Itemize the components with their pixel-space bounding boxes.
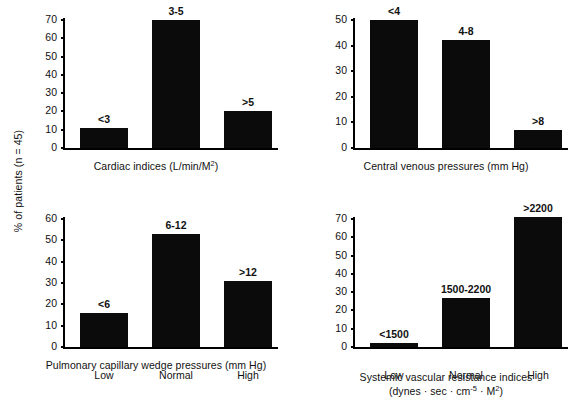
y-axis-tick-mark (351, 273, 355, 275)
y-axis-tick-mark (351, 309, 355, 311)
y-axis-tick-label: 10 (335, 322, 347, 335)
y-axis-tick-label: 0 (341, 141, 347, 154)
caption-units-b: · M (477, 385, 495, 397)
y-axis-tick-label: 60 (45, 31, 57, 44)
y-axis-tick-label: 10 (45, 123, 57, 136)
y-axis-tick-label: 50 (45, 50, 57, 63)
bar-value-label: 3-5 (168, 5, 183, 17)
y-axis-tick-mark (61, 261, 65, 263)
bar-value-label: >12 (239, 266, 257, 278)
y-axis-tick-label: 20 (335, 303, 347, 316)
y-axis-tick-mark (351, 121, 355, 123)
panel-pulmonary-capillary-wedge-pressures: 0102030405060<66-12>12LowNormalHigh Pulm… (22, 201, 290, 398)
y-axis-tick-mark (351, 147, 355, 149)
y-axis-tick-label: 70 (45, 13, 57, 26)
y-axis-tick-label: 70 (335, 212, 347, 225)
y-axis-tick-mark (61, 92, 65, 94)
y-axis-tick-mark (61, 282, 65, 284)
caption-units-a: (dynes · sec · cm (389, 385, 470, 397)
y-axis-tick-mark (61, 147, 65, 149)
y-axis-tick-mark (351, 70, 355, 72)
y-axis-tick-label: 40 (45, 68, 57, 81)
bar: <3 (80, 128, 128, 148)
caption-text-end: ) (215, 160, 219, 172)
bar: <1500 (370, 343, 418, 347)
y-axis-tick-mark (351, 328, 355, 330)
caption-units-c: ) (500, 385, 504, 397)
bar-value-label: <6 (98, 298, 110, 310)
y-axis-tick-mark (61, 346, 65, 348)
bar: >5 (224, 111, 272, 148)
y-axis-tick-mark (61, 129, 65, 131)
y-axis-tick-label: 60 (335, 230, 347, 243)
caption-cardiac-indices: Cardiac indices (L/min/M2) (22, 160, 290, 174)
y-axis-tick-mark (61, 218, 65, 220)
y-axis-tick-mark (61, 56, 65, 58)
plot-area-systemic-vascular-resistance-indices: 010203040506070<15001500-2200>2200LowNor… (354, 219, 568, 347)
four-panel-bar-figure: % of patients (n = 45) 010203040506070<3… (0, 0, 586, 398)
y-axis-tick-label: 0 (51, 141, 57, 154)
bar: 3-5 (152, 20, 200, 148)
y-axis-tick-label: 10 (335, 115, 347, 128)
bar-value-label: <3 (98, 113, 110, 125)
caption-line-1: Systemic vascular resistance indices (360, 371, 533, 383)
y-axis-tick-mark (351, 346, 355, 348)
bar: >12 (224, 281, 272, 347)
bar-value-label: 6-12 (165, 219, 186, 231)
panel-cardiac-indices: 010203040506070<33-5>5 Cardiac indices (… (22, 2, 290, 201)
y-axis-tick-mark (61, 325, 65, 327)
y-axis-tick-label: 30 (45, 276, 57, 289)
y-axis-tick-label: 30 (335, 64, 347, 77)
bar: >2200 (514, 217, 562, 347)
y-axis-tick-label: 40 (335, 267, 347, 280)
caption-text: Cardiac indices (L/min/M (94, 160, 211, 172)
y-axis-tick-label: 40 (45, 255, 57, 268)
bar-value-label: <4 (388, 5, 400, 17)
y-axis-tick-mark (351, 236, 355, 238)
bar: 6-12 (152, 234, 200, 347)
bar: 1500-2200 (442, 298, 490, 347)
bar-value-label: >8 (532, 115, 544, 127)
caption-systemic-vascular-resistance-indices: Systemic vascular resistance indices (dy… (312, 371, 580, 398)
y-axis-tick-label: 20 (335, 90, 347, 103)
plot-area-central-venous-pressures: 01020304050<44-8>8 (354, 20, 568, 148)
bar-value-label: 1500-2200 (441, 283, 491, 295)
y-axis-tick-label: 40 (335, 39, 347, 52)
bar-value-label: >5 (242, 96, 254, 108)
y-axis-tick-mark (61, 303, 65, 305)
bar-value-label: <1500 (379, 328, 409, 340)
panel-systemic-vascular-resistance-indices: 010203040506070<15001500-2200>2200LowNor… (312, 201, 580, 398)
y-axis-tick-label: 20 (45, 297, 57, 310)
y-axis-tick-label: 0 (51, 340, 57, 353)
bar: 4-8 (442, 40, 490, 148)
bar: >8 (514, 130, 562, 148)
caption-line-2: (dynes · sec · cm-5 · M2) (312, 385, 580, 398)
bar: <4 (370, 20, 418, 148)
bar-value-label: >2200 (523, 202, 553, 214)
y-axis-tick-label: 20 (45, 104, 57, 117)
plot-area-cardiac-indices: 010203040506070<33-5>5 (64, 20, 278, 148)
y-axis-tick-mark (61, 110, 65, 112)
y-axis-tick-mark (61, 74, 65, 76)
y-axis-tick-label: 50 (335, 249, 347, 262)
y-axis-tick-mark (61, 37, 65, 39)
y-axis-tick-label: 50 (45, 233, 57, 246)
caption-pulmonary-capillary-wedge-pressures: Pulmonary capillary wedge pressures (mm … (22, 359, 290, 373)
panel-central-venous-pressures: 01020304050<44-8>8 Central venous pressu… (312, 2, 580, 201)
y-axis-tick-label: 60 (45, 212, 57, 225)
caption-central-venous-pressures: Central venous pressures (mm Hg) (312, 160, 580, 174)
y-axis-tick-mark (61, 19, 65, 21)
plot-area-pulmonary-capillary-wedge-pressures: 0102030405060<66-12>12LowNormalHigh (64, 219, 278, 347)
y-axis-tick-mark (351, 291, 355, 293)
y-axis-tick-label: 0 (341, 340, 347, 353)
bar: <6 (80, 313, 128, 347)
y-axis-tick-label: 30 (335, 285, 347, 298)
y-axis-tick-label: 10 (45, 319, 57, 332)
y-axis-tick-mark (351, 45, 355, 47)
y-axis-tick-mark (351, 218, 355, 220)
y-axis-tick-label: 50 (335, 13, 347, 26)
y-axis-tick-mark (351, 96, 355, 98)
bar-value-label: 4-8 (458, 25, 473, 37)
y-axis-tick-mark (351, 19, 355, 21)
y-axis-tick-mark (61, 239, 65, 241)
